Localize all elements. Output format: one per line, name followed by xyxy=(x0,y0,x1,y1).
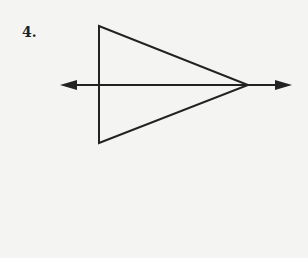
diagram-canvas xyxy=(0,0,308,258)
arrow-left-icon xyxy=(60,80,77,90)
arrow-right-icon xyxy=(275,80,292,90)
